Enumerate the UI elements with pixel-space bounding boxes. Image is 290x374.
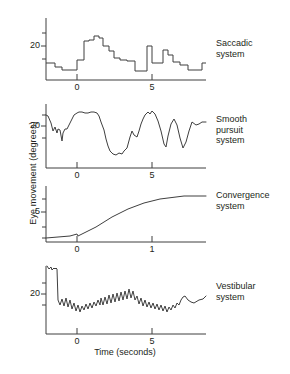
- vestibular-system-label: Vestibular system: [216, 281, 256, 302]
- vestibular-xtick-5: 5: [142, 336, 162, 346]
- panel-saccadic: 20 0 5 Saccadic system: [0, 0, 290, 92]
- convergence-system-label: Convergence system: [216, 190, 270, 211]
- smooth-pursuit-label-line2: pursuit: [216, 125, 243, 135]
- panel-smooth-pursuit: 20 0 5 Smooth pursuit system: [0, 96, 290, 188]
- vestibular-ytick-20: 20: [16, 288, 40, 298]
- saccadic-axes: [41, 18, 206, 80]
- saccadic-xtick-5: 5: [142, 82, 162, 92]
- smooth-pursuit-ytick-20: 20: [16, 120, 40, 130]
- saccadic-ytick-20: 20: [16, 40, 40, 50]
- convergence-xtick-1: 1: [142, 244, 162, 254]
- smooth-pursuit-axes: [41, 104, 206, 168]
- saccadic-label-line1: Saccadic: [216, 38, 253, 48]
- convergence-trace: [46, 196, 206, 238]
- vestibular-label-line1: Vestibular: [216, 281, 256, 291]
- panel-vestibular: 20 0 5 Vestibular system: [0, 262, 290, 352]
- vestibular-xtick-0: 0: [67, 336, 87, 346]
- convergence-ytick-5: 5: [16, 206, 40, 216]
- saccadic-xtick-0: 0: [67, 82, 87, 92]
- saccadic-trace: [46, 36, 206, 71]
- convergence-axes: [41, 186, 206, 242]
- smooth-pursuit-xtick-0: 0: [67, 170, 87, 180]
- convergence-label-line1: Convergence: [216, 190, 270, 200]
- x-axis-label: Time (seconds): [60, 347, 190, 357]
- saccadic-system-label: Saccadic system: [216, 38, 253, 59]
- panel-convergence: 5 0 1 Convergence system: [0, 182, 290, 268]
- convergence-label-line2: system: [216, 201, 245, 211]
- smooth-pursuit-system-label: Smooth pursuit system: [216, 114, 247, 146]
- smooth-pursuit-label-line3: system: [216, 135, 245, 145]
- vestibular-trace: [47, 266, 206, 312]
- saccadic-label-line2: system: [216, 49, 245, 59]
- smooth-pursuit-label-line1: Smooth: [216, 114, 247, 124]
- eye-movement-figure: Eye movement (degrees) 20 0 5 Saccadic s…: [0, 0, 290, 374]
- smooth-pursuit-xtick-5: 5: [142, 170, 162, 180]
- vestibular-label-line2: system: [216, 292, 245, 302]
- smooth-pursuit-trace: [46, 111, 206, 155]
- convergence-xtick-0: 0: [67, 244, 87, 254]
